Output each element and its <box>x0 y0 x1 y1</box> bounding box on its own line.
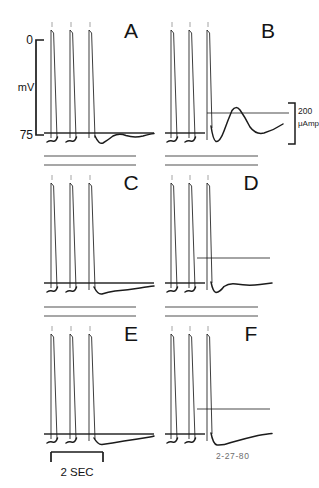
panel-c-letter: C <box>123 171 138 194</box>
panel-d: D <box>165 165 272 307</box>
current-scale-unit: μAmp <box>298 119 319 128</box>
panel-b-spike-3 <box>207 30 212 140</box>
current-scale-bracket <box>288 103 295 144</box>
panel-f-spike-1 <box>171 334 177 439</box>
panel-b: B 200 μAmp <box>44 19 319 156</box>
panel-c-spike-1 <box>51 183 57 288</box>
panel-d-ahp-1 <box>167 287 178 292</box>
panel-c: C <box>44 165 154 307</box>
panel-f-spike-3 <box>207 334 212 441</box>
panel-e-letter: E <box>124 322 138 345</box>
panel-a-ahp-1 <box>47 137 58 142</box>
time-scale-label: 2 SEC <box>60 466 93 478</box>
panel-a-response-trace <box>95 134 154 144</box>
panel-d-response-trace <box>211 282 272 293</box>
panel-c-response-trace <box>94 286 154 294</box>
voltage-axis-unit-label: mV <box>18 81 35 93</box>
voltage-axis-bottom-label: 75 <box>20 128 34 142</box>
panel-f: F 2-27-80 <box>165 316 272 461</box>
panel-a-letter: A <box>124 19 138 42</box>
panel-a-spike-2 <box>70 30 76 138</box>
panel-f-letter: F <box>245 322 258 345</box>
panel-e: E 2 SEC <box>44 316 154 478</box>
panel-e-stimulus-ticks <box>52 326 90 331</box>
current-scale-value: 200 <box>298 106 312 116</box>
panel-d-ahp-2 <box>185 287 196 292</box>
panel-a-spike-1 <box>51 30 57 138</box>
panel-b-letter: B <box>261 19 275 42</box>
panel-e-spike-2 <box>70 334 76 439</box>
panel-f-stimulus-ticks <box>172 326 208 331</box>
panel-e-response-trace <box>94 436 154 445</box>
panel-f-ahp-2 <box>185 438 196 443</box>
panel-a: A <box>44 19 154 143</box>
figure-canvas: 0 75 mV A B <box>0 0 319 488</box>
panel-c-spike-3 <box>89 183 95 290</box>
panel-d-letter: D <box>243 171 258 194</box>
panel-c-ahp-2 <box>66 287 77 292</box>
panel-b-ahp-1 <box>167 137 178 142</box>
voltage-axis-top-label: 0 <box>26 33 33 47</box>
panel-d-spike-1 <box>171 183 177 288</box>
panel-f-response-trace <box>211 433 272 445</box>
panel-f-ahp-1 <box>167 438 178 443</box>
panel-e-spike-3 <box>89 334 95 441</box>
panel-a-spike-3 <box>89 30 95 138</box>
panel-d-spike-2 <box>189 183 195 288</box>
panel-e-spike-1 <box>51 334 57 439</box>
figure-root: 0 75 mV A B <box>0 0 319 488</box>
panel-a-ahp-2 <box>66 137 77 142</box>
panel-b-spike-1 <box>171 30 177 138</box>
panel-b-spike-2 <box>189 30 195 138</box>
voltage-axis-bracket <box>36 40 44 135</box>
panel-b-ahp-2 <box>185 137 196 142</box>
date-stamp: 2-27-80 <box>216 451 250 461</box>
panel-a-stimulus-ticks <box>52 22 90 27</box>
time-scale-bracket <box>51 452 103 462</box>
panel-e-ahp-1 <box>47 438 58 443</box>
panel-c-ahp-1 <box>47 287 58 292</box>
panel-c-spike-2 <box>70 183 76 288</box>
panel-f-spike-2 <box>189 334 195 439</box>
panel-e-ahp-2 <box>66 438 77 443</box>
panel-c-stimulus-ticks <box>52 175 90 180</box>
panel-b-stimulus-ticks <box>172 22 208 27</box>
panel-d-spike-3 <box>207 183 212 290</box>
panel-d-stimulus-ticks <box>172 175 208 180</box>
